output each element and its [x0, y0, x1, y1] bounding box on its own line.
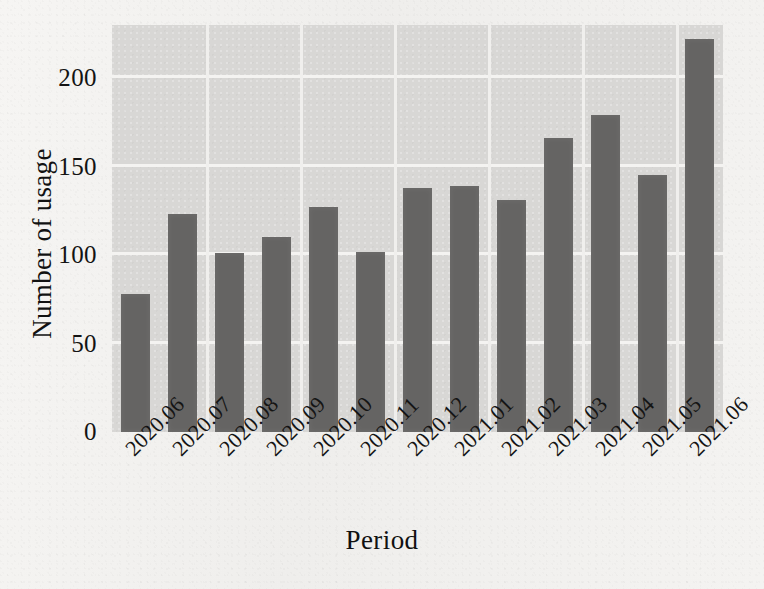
gridline-x-10 [582, 25, 585, 432]
y-axis-tick-label: 150 [58, 153, 97, 181]
bar [544, 138, 573, 432]
plot-area [112, 25, 723, 432]
bar [121, 294, 150, 432]
gridline-x-6 [394, 25, 397, 432]
gridline-x-2 [206, 25, 209, 432]
gridline-x-12 [676, 25, 679, 432]
y-axis-tick-label: 50 [71, 330, 97, 358]
y-axis-tick-label: 100 [58, 241, 97, 269]
bar-chart: 050100150200 Number of usage 2020.062020… [0, 0, 764, 589]
x-axis-title: Period [0, 525, 764, 556]
gridline-x-8 [488, 25, 491, 432]
y-axis-tick-label: 0 [84, 418, 97, 446]
gridline-y-150 [112, 164, 723, 167]
bar [591, 115, 620, 432]
gridline-x-4 [300, 25, 303, 432]
gridline-y-200 [112, 75, 723, 78]
y-axis-title: Number of usage [27, 114, 58, 374]
y-axis-tick-label: 200 [58, 64, 97, 92]
bar [685, 39, 714, 432]
